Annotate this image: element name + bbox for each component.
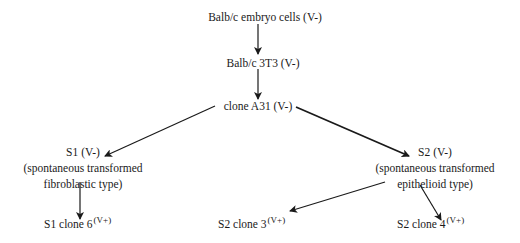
node-balb-c-3t3: Balb/c 3T3 (V-) [208,55,318,71]
node-s1-clone-6: S1 clone 6(V+) [44,216,134,233]
node-description-line2: epithelioid type) [370,176,500,192]
node-description-line1: (spontaneous transformed [370,160,500,176]
node-label: clone A31 (V-) [213,98,303,114]
node-superscript: (V+) [268,215,286,225]
edges-layer [0,0,520,243]
node-clone-a31: clone A31 (V-) [213,98,303,114]
node-label: Balb/c embryo cells (V-) [190,9,340,25]
node-description-line1: (spontaneous transformed [18,160,148,176]
node-s2: S2 (V-) (spontaneous transformed epithel… [370,144,500,192]
node-label: S1 clone 6 [44,218,93,230]
node-s2-clone-3: S2 clone 3(V+) [218,216,308,233]
node-label: Balb/c 3T3 (V-) [208,55,318,71]
node-label: S2 (V-) [370,144,500,160]
node-superscript: (V+) [94,215,112,225]
node-label: S2 clone 4 [397,218,446,230]
node-superscript: (V+) [447,215,465,225]
node-s2-clone-4: S2 clone 4(V+) [397,216,497,233]
node-description-line2: fibroblastic type) [18,176,148,192]
node-label: S2 clone 3 [218,218,267,230]
node-label: S1 (V-) [18,144,148,160]
node-balb-c-embryo-cells: Balb/c embryo cells (V-) [190,9,340,25]
node-s1: S1 (V-) (spontaneous transformed fibrobl… [18,144,148,192]
